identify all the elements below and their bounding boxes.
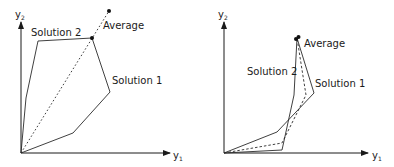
solution-2-label: Solution 2: [31, 27, 81, 38]
y2-axis-label: y2: [15, 9, 25, 21]
solution-1-curve: [224, 38, 314, 153]
diagram-stage: y2 y1 Solution 2 Average Solution 1 y2 y…: [0, 0, 394, 167]
y2-axis-label: y2: [218, 9, 228, 21]
intersection-dot: [90, 36, 94, 40]
intersection-dot: [297, 35, 301, 39]
solution-1-label: Solution 1: [112, 75, 162, 86]
left-diagram: y2 y1 Solution 2 Average Solution 1: [15, 9, 183, 162]
right-diagram: y2 y1 Solution 2 Average Solution 1: [218, 9, 382, 162]
average-label: Average: [103, 20, 144, 31]
objective-space-diagrams: y2 y1 Solution 2 Average Solution 1 y2 y…: [0, 0, 394, 167]
average-dot: [107, 9, 111, 13]
y1-axis-label: y1: [372, 150, 382, 162]
solution-2-curve: [224, 38, 297, 153]
solution-1-label: Solution 1: [315, 78, 365, 89]
solution-1-curve: [21, 38, 110, 153]
average-label: Average: [304, 38, 345, 49]
y1-axis-label: y1: [173, 150, 183, 162]
solution-2-label: Solution 2: [247, 66, 297, 77]
